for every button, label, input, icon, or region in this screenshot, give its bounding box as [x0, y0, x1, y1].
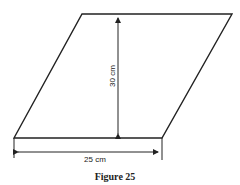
height-label: 30 cm	[108, 65, 117, 87]
parallelogram-shape	[14, 14, 232, 138]
figure-caption: Figure 25	[95, 171, 136, 182]
parallelogram-figure: 30 cm 25 cm Figure 25	[0, 0, 240, 185]
base-label: 25 cm	[84, 155, 106, 164]
